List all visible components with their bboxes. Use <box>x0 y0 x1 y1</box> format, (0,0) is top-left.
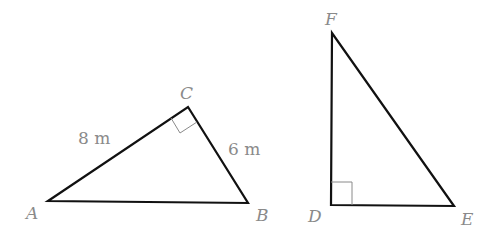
triangle-def: F D E <box>307 9 474 229</box>
right-angle-marker-d <box>331 182 352 205</box>
triangles-figure: A B C 8 m 6 m F D E <box>0 0 502 237</box>
diagram-canvas: A B C 8 m 6 m F D E <box>0 0 502 237</box>
vertex-label-f: F <box>324 9 338 29</box>
right-angle-marker-c <box>171 118 197 133</box>
triangle-def-outline <box>331 33 454 206</box>
side-label-cb: 6 m <box>228 139 260 159</box>
vertex-label-c: C <box>180 83 193 103</box>
vertex-label-e: E <box>460 209 474 229</box>
triangle-abc-outline <box>48 107 248 203</box>
triangle-abc: A B C 8 m 6 m <box>24 83 269 225</box>
side-label-ac: 8 m <box>78 128 110 148</box>
vertex-label-b: B <box>255 205 269 225</box>
vertex-label-a: A <box>24 203 38 223</box>
vertex-label-d: D <box>307 206 322 226</box>
